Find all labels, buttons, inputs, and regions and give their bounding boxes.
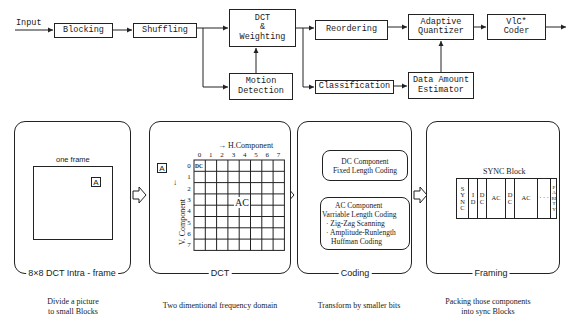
v-arrow-icon: ↓ [173,178,177,187]
segment-dc: D C [506,179,515,218]
caption-framing: Packing those components into sync Block… [445,297,530,317]
dc-component-title: DC Component [323,157,407,166]
panel-title-coding: Coding [339,268,372,278]
segment-parity: P A RI T Y [551,179,557,218]
sync-block-label: SYNC Block [483,167,525,176]
segment-ellipsis: · · · [538,179,551,218]
ac-region-label: AC [234,197,250,208]
segment-sync: S Y N C [457,179,469,218]
block-a-marker: A [157,163,167,173]
v-component-label: V. Component [178,199,187,245]
segment-ac: AC [487,179,506,218]
dc-cell-label: DC [195,163,203,169]
dc-component-method: Fixed Length Coding [323,166,407,175]
ac-bullet-zigzag: · Zig-Zag Scanning [321,219,409,228]
caption-dct: Two dimentional frequency domain [163,301,277,311]
segment-dc: D C [478,179,487,218]
panel-title-dct: DCT [209,268,232,278]
caption-coding: Transform by smaller bits [318,301,401,311]
ac-component-box: AC Component Varriable Length Coding · Z… [320,197,410,250]
segment-ac: AC [515,179,538,218]
ac-component-title: AC Component [321,201,409,210]
panel-title-framing: Framing [472,268,509,278]
segment-id: I D [469,179,478,218]
ac-bullet-huffman: Huffman Coding [321,237,409,246]
ac-component-method: Varriable Length Coding [321,210,409,219]
sync-block: S Y N C I D D C AC D C AC · · · P A RI T… [456,178,557,219]
ac-bullet-amplitude: · Amplitude-Runlength [321,228,409,237]
dc-component-box: DC Component Fixed Length Coding [322,150,408,181]
